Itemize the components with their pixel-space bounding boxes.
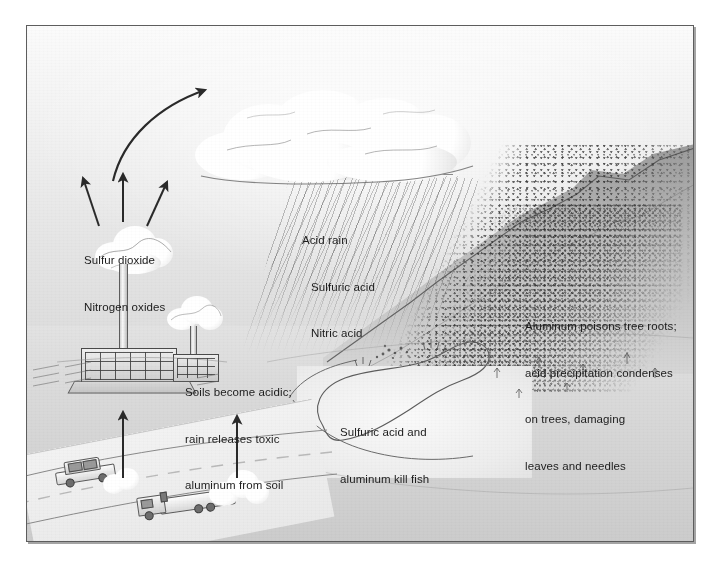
label-emissions-line2: Nitrogen oxides: [84, 300, 165, 316]
label-trees-line3: on trees, damaging: [525, 412, 677, 428]
label-emissions-line1: Sulfur dioxide: [84, 253, 165, 269]
label-lake-line1: Sulfuric acid and: [340, 425, 429, 441]
label-trees-line1: Aluminum poisons tree roots;: [525, 319, 677, 335]
label-trees-line4: leaves and needles: [525, 459, 677, 475]
label-lake-line2: aluminum kill fish: [340, 472, 429, 488]
label-acid-rain-line1: Acid rain: [302, 233, 375, 249]
label-soils-line3: aluminum from soil: [185, 478, 292, 494]
smokestack-emission-arrows: [83, 174, 167, 226]
label-soils: Soils become acidic; rain releases toxic…: [185, 354, 292, 525]
illustration-canvas: Sulfur dioxide Nitrogen oxides Acid rain…: [0, 0, 709, 562]
label-lake: Sulfuric acid and aluminum kill fish: [340, 394, 429, 518]
label-trees: Aluminum poisons tree roots; acid precip…: [525, 288, 677, 505]
illustration-plate: Sulfur dioxide Nitrogen oxides Acid rain…: [26, 25, 694, 542]
label-soils-line1: Soils become acidic;: [185, 385, 292, 401]
pollutant-transport-arrow: [113, 90, 205, 181]
label-acid-rain-line2: Sulfuric acid: [302, 280, 375, 296]
label-acid-rain-line3: Nitric acid: [302, 326, 375, 342]
label-soils-line2: rain releases toxic: [185, 432, 292, 448]
label-trees-line2: acid precipitation condenses: [525, 366, 677, 382]
label-emissions: Sulfur dioxide Nitrogen oxides: [84, 222, 165, 346]
label-acid-rain: Acid rain Sulfuric acid Nitric acid: [302, 202, 375, 373]
